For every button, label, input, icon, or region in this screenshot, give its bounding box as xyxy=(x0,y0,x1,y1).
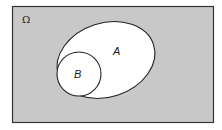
set-a-label: A xyxy=(112,45,120,57)
set-b-label: B xyxy=(74,68,81,80)
venn-diagram: Ω A B xyxy=(0,0,222,130)
universe-label: Ω xyxy=(22,14,30,25)
